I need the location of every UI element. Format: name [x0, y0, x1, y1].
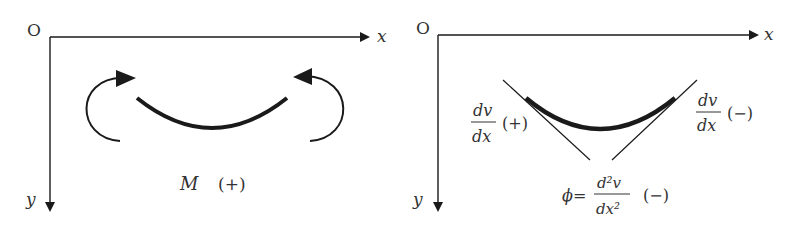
moment-sign: (+) [218, 174, 246, 194]
deflection-curve [526, 98, 675, 129]
right-tangent [612, 80, 697, 160]
x-axis-label: x [764, 24, 774, 44]
svg-text:(−): (−) [643, 186, 669, 205]
right-slope-label: dv dx (−) [696, 91, 753, 135]
y-axis-label: y [412, 189, 423, 209]
svg-text:d²v: d²v [597, 174, 622, 192]
y-axis-label: y [25, 189, 36, 209]
left-panel: O x y M (+) [25, 20, 387, 210]
origin-label: O [27, 20, 41, 40]
svg-text:(+): (+) [502, 114, 528, 133]
curvature-label: ϕ= d²v dx² (−) [562, 174, 669, 218]
left-slope-label: dv dx (+) [471, 101, 528, 146]
moment-label: M [179, 173, 199, 194]
svg-text:ϕ=: ϕ= [562, 186, 586, 205]
svg-text:(−): (−) [727, 104, 753, 123]
beam-curve [137, 98, 287, 128]
svg-text:dx²: dx² [596, 200, 620, 218]
moment-arrow-left-icon [86, 78, 122, 141]
origin-label: O [416, 18, 430, 38]
diagram-canvas: O x y M (+) O x y dv dx (+) [0, 0, 803, 229]
svg-text:dx: dx [472, 127, 491, 146]
svg-text:dx: dx [697, 116, 716, 135]
svg-text:dv: dv [473, 101, 492, 120]
svg-text:dv: dv [698, 91, 717, 110]
right-panel: O x y dv dx (+) dv dx (−) ϕ= d²v dx² (−) [412, 18, 774, 218]
moment-arrow-right-icon [306, 76, 343, 141]
x-axis-label: x [377, 26, 387, 46]
